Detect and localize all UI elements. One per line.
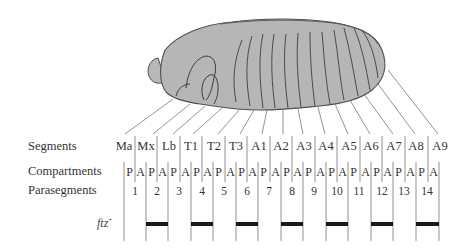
gene-name: ftz	[97, 216, 108, 230]
segment-label: T1	[180, 139, 202, 154]
compartment-label: P	[416, 165, 427, 180]
compartment-label: A	[202, 165, 213, 180]
compartment-label: P	[348, 165, 359, 180]
embryo-segmentation-diagram	[0, 0, 469, 252]
compartment-label: P	[371, 165, 382, 180]
parasegments-row-label: Parasegments	[28, 183, 97, 198]
parasegment-number: 4	[191, 185, 213, 197]
ftz-stripe-ps8	[281, 222, 303, 226]
compartment-label: A	[157, 165, 168, 180]
compartment-label: P	[213, 165, 224, 180]
segment-label: A3	[293, 139, 315, 154]
segment-label: Mx	[135, 139, 157, 154]
parasegment-number: 10	[326, 185, 348, 197]
segment-label: A5	[338, 139, 360, 154]
compartment-label: A	[360, 165, 371, 180]
parasegment-number: 9	[303, 185, 325, 197]
compartment-label: P	[258, 165, 269, 180]
parasegment-number: 6	[236, 185, 258, 197]
segments-row-label: Segments	[28, 139, 77, 154]
compartments-row-label: Compartments	[28, 164, 102, 179]
compartment-label: P	[146, 165, 157, 180]
parasegment-number: 1	[124, 185, 146, 197]
compartment-label: A	[180, 165, 191, 180]
segment-label: Lb	[158, 139, 180, 154]
parasegment-number: 12	[371, 185, 393, 197]
segment-label: A7	[383, 139, 405, 154]
segment-label: A4	[315, 139, 337, 154]
segment-label: T3	[225, 139, 247, 154]
ftz-stripe-ps6	[236, 222, 258, 226]
compartment-label: A	[270, 165, 281, 180]
embryo-drawing	[148, 19, 385, 110]
gene-superscript: +	[108, 216, 112, 224]
compartment-label: A	[135, 165, 146, 180]
compartment-label: A	[428, 165, 439, 180]
segment-label: A2	[270, 139, 292, 154]
compartment-label: A	[315, 165, 326, 180]
ftz-stripe-ps14	[416, 222, 439, 226]
compartment-label: P	[124, 165, 135, 180]
compartment-label: P	[236, 165, 247, 180]
compartment-label: A	[225, 165, 236, 180]
segment-label: T2	[203, 139, 225, 154]
parasegment-number: 8	[281, 185, 303, 197]
compartment-label: P	[191, 165, 202, 180]
ftz-stripe-ps12	[371, 222, 393, 226]
parasegment-number: 14	[416, 185, 438, 197]
compartment-label: P	[168, 165, 179, 180]
parasegment-number: 5	[213, 185, 235, 197]
ftz-stripe-ps2	[146, 222, 168, 226]
parasegment-number: 2	[146, 185, 168, 197]
parasegment-number: 13	[393, 185, 415, 197]
compartment-label: P	[393, 165, 404, 180]
segment-label: Ma	[113, 139, 135, 154]
ftz-stripe-ps4	[191, 222, 213, 226]
segment-label: A1	[248, 139, 270, 154]
ftz-gene-label: ftz+	[97, 216, 112, 231]
parasegment-number: 3	[168, 185, 190, 197]
compartment-label: A	[247, 165, 258, 180]
segment-label: A8	[405, 139, 427, 154]
ftz-stripe-ps10	[326, 222, 348, 226]
compartment-label: P	[303, 165, 314, 180]
compartment-label: P	[281, 165, 292, 180]
parasegment-number: 7	[258, 185, 280, 197]
compartment-label: A	[405, 165, 416, 180]
compartment-label: A	[337, 165, 348, 180]
compartment-label: A	[382, 165, 393, 180]
compartment-label: A	[292, 165, 303, 180]
segment-label: A6	[360, 139, 382, 154]
segment-label: A9	[429, 139, 451, 154]
parasegment-number: 11	[348, 185, 370, 197]
ftz-expression-stripes	[146, 222, 439, 226]
compartment-label: P	[326, 165, 337, 180]
